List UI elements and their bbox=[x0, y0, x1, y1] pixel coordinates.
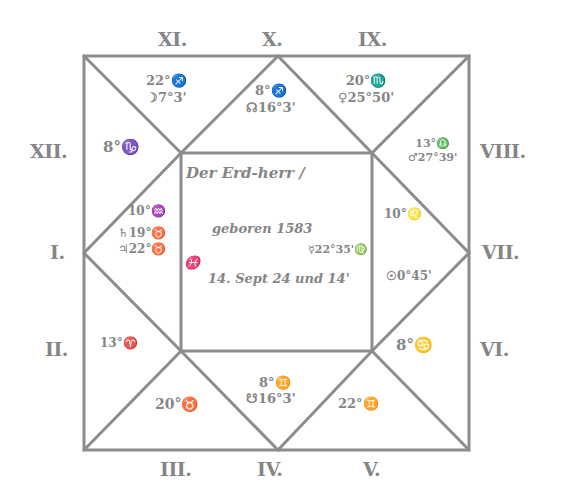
house-vi-entry: 8°♋ bbox=[396, 338, 433, 353]
house-xii-entry: 8°♑ bbox=[103, 140, 140, 155]
house-label-v: V. bbox=[363, 460, 380, 479]
house-xii-cusp: 8°♑ bbox=[103, 140, 140, 155]
house-ii-entry: 13°♈ bbox=[100, 337, 138, 349]
house-viii-planet: ♂27°39' bbox=[408, 152, 457, 163]
house-label-x: X. bbox=[262, 30, 282, 49]
house-ix-entry: 20°♏ ♀25°50' bbox=[338, 74, 394, 104]
house-i-cusp: 10°♒ bbox=[128, 205, 166, 217]
house-i-entry: 10°♒ ♄19°♉ ♃22°♉ bbox=[118, 205, 166, 255]
center-pisces-mark: ♓ bbox=[184, 256, 200, 269]
house-viii-cusp: 13°♎ bbox=[408, 138, 457, 149]
house-xi-planet: ☽7°3' bbox=[146, 91, 187, 104]
house-iv-cusp: 8°♊ bbox=[254, 376, 296, 389]
house-ix-cusp: 20°♏ bbox=[338, 74, 394, 87]
house-label-ix: IX. bbox=[358, 30, 387, 49]
house-iv-entry: 8°♊ ☋16°3' bbox=[246, 376, 296, 405]
house-ii-cusp: 13°♈ bbox=[100, 337, 138, 349]
house-vii-cusp-entry: 10°♌ bbox=[384, 208, 422, 220]
house-vii-sun: ☉0°45' bbox=[386, 270, 432, 282]
house-xi-cusp: 22°♐ bbox=[146, 74, 187, 87]
house-label-viii: VIII. bbox=[480, 142, 526, 161]
house-vi-cusp: 8°♋ bbox=[396, 338, 433, 353]
house-v-cusp: 22°♊ bbox=[338, 397, 379, 410]
diagonal-br bbox=[372, 351, 469, 450]
house-label-i: I. bbox=[50, 243, 65, 262]
house-label-vi: VI. bbox=[480, 340, 509, 359]
house-x-cusp: 8°♐ bbox=[246, 84, 296, 97]
house-label-vii: VII. bbox=[482, 243, 519, 262]
house-i-saturn: ♄19°♉ bbox=[118, 227, 166, 239]
house-ix-planet: ♀25°50' bbox=[338, 91, 394, 104]
house-iii-cusp: 20°♉ bbox=[155, 397, 198, 411]
house-label-xii: XII. bbox=[30, 142, 67, 161]
house-x-planet: ☊16°3' bbox=[246, 101, 296, 114]
house-label-iii: III. bbox=[160, 460, 191, 479]
house-iv-planet: ☋16°3' bbox=[246, 392, 296, 405]
house-vii-mercury: ☿22°35'♍ bbox=[308, 244, 368, 255]
house-x-entry: 8°♐ ☊16°3' bbox=[246, 84, 296, 114]
house-iii-entry: 20°♉ bbox=[155, 397, 198, 411]
house-label-xi: XI. bbox=[158, 30, 187, 49]
house-xi-entry: 22°♐ ☽7°3' bbox=[146, 74, 187, 104]
house-label-iv: IV. bbox=[257, 460, 282, 479]
house-v-entry: 22°♊ bbox=[338, 397, 379, 410]
house-i-jupiter: ♃22°♉ bbox=[118, 243, 166, 255]
house-vii-cusp: 10°♌ bbox=[384, 208, 422, 220]
horoscope-square-chart bbox=[0, 0, 563, 503]
house-label-ii: II. bbox=[45, 340, 68, 359]
center-birth-date: 14. Sept 24 und 14' bbox=[208, 272, 350, 285]
center-title: Der Erd-herr / bbox=[186, 166, 305, 181]
center-birth-year: geboren 1583 bbox=[212, 222, 312, 235]
house-viii-entry: 13°♎ ♂27°39' bbox=[408, 138, 457, 163]
